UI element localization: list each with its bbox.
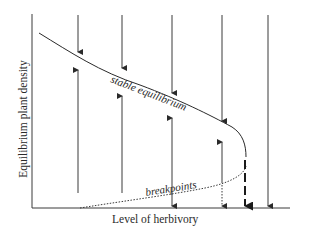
stable-equilibrium-label: stable equilibrium: [109, 73, 188, 113]
x-axis-label: Level of herbivory: [112, 213, 198, 225]
y-axis-label: Equilibrium plant density: [17, 60, 29, 178]
diagram-canvas: stable equilibrium breakpoints: [0, 0, 312, 237]
breakpoints-label: breakpoints: [144, 178, 197, 198]
